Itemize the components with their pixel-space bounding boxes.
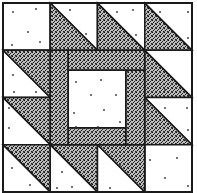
dot: [73, 112, 75, 114]
block-cell: [98, 145, 145, 192]
dot: [75, 126, 77, 128]
block-cell: [50, 145, 97, 192]
center-light-square: [68, 70, 126, 128]
light-square: [145, 145, 192, 192]
frame-bottom-strip: [68, 128, 126, 145]
dot: [12, 11, 14, 13]
dot: [187, 11, 189, 13]
dot: [187, 185, 189, 187]
quilt-block-diagram: [0, 0, 197, 193]
frame-right-strip: [126, 70, 145, 145]
dot: [85, 33, 87, 35]
dot: [13, 91, 15, 93]
block-cell: [145, 3, 192, 50]
block-cell: [3, 98, 50, 145]
dot: [90, 94, 92, 96]
dot: [11, 44, 13, 46]
dot: [159, 11, 161, 13]
dot: [39, 41, 41, 43]
dot: [8, 107, 10, 109]
dot: [35, 127, 37, 129]
dot: [27, 31, 29, 33]
block-cell: [3, 3, 50, 50]
dot: [164, 89, 166, 91]
block-cell: [3, 145, 50, 192]
dot: [97, 126, 99, 128]
dot: [185, 139, 187, 141]
dot: [187, 129, 189, 131]
dot: [119, 121, 121, 123]
dot: [176, 157, 178, 159]
block-cell: [145, 145, 192, 192]
dot: [29, 184, 31, 186]
dot: [135, 34, 137, 36]
dot: [11, 167, 13, 169]
dot: [187, 37, 189, 39]
dot: [35, 8, 37, 10]
dot: [119, 164, 121, 166]
dot: [100, 79, 102, 81]
dot: [164, 107, 166, 109]
dot: [109, 187, 111, 189]
dot: [56, 187, 58, 189]
dot: [69, 9, 71, 11]
dot: [116, 11, 118, 13]
block-cell: [145, 50, 192, 97]
block-cell: [145, 98, 192, 145]
block-cell: [3, 50, 50, 97]
dot: [12, 74, 14, 76]
light-square: [3, 3, 50, 50]
dot: [35, 91, 37, 93]
dot: [186, 107, 188, 109]
dot: [132, 9, 134, 11]
dot: [61, 171, 63, 173]
dot: [75, 81, 77, 83]
block-cell: [50, 3, 97, 50]
dot: [71, 186, 73, 188]
dot: [8, 127, 10, 129]
dot: [149, 159, 151, 161]
dot: [115, 94, 117, 96]
frame-top-strip: [68, 50, 145, 70]
dot: [103, 109, 105, 111]
dot: [164, 177, 166, 179]
block-cell: [98, 3, 145, 50]
frame-left-strip: [50, 50, 68, 145]
